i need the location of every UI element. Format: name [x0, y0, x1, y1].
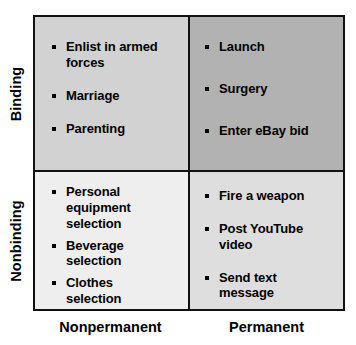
binding-permanence-matrix: Binding Nonbinding Enlist in armed force… — [0, 0, 356, 345]
square-bullet-icon — [52, 244, 56, 248]
column-axis-label-permanent: Permanent — [188, 314, 345, 340]
list-item: Beverage selection — [52, 238, 182, 270]
column-axis-label-nonpermanent: Nonpermanent — [33, 314, 188, 340]
square-bullet-icon — [52, 45, 56, 49]
square-bullet-icon — [205, 45, 209, 49]
list-item: Parenting — [52, 121, 182, 137]
quadrant-binding-permanent-list: Launch Surgery Enter eBay bid — [190, 17, 343, 139]
quadrant-binding-nonpermanent-list: Enlist in armed forces Marriage Parentin… — [35, 17, 188, 136]
list-item: Launch — [205, 39, 337, 55]
quadrant-binding-nonpermanent: Enlist in armed forces Marriage Parentin… — [35, 17, 190, 172]
row-axis-label-binding: Binding — [0, 16, 32, 171]
quadrant-nonbinding-permanent: Fire a weapon Post YouTube video Send te… — [190, 172, 343, 309]
list-item: Fire a weapon — [205, 188, 337, 204]
list-item: Enlist in armed forces — [52, 39, 182, 71]
row-axis-label-nonbinding: Nonbinding — [0, 171, 32, 311]
square-bullet-icon — [52, 94, 56, 98]
list-item: Enter eBay bid — [205, 123, 337, 139]
list-item: Post YouTube video — [205, 221, 337, 253]
quadrant-binding-permanent: Launch Surgery Enter eBay bid — [190, 17, 343, 172]
row-axis-label-nonbinding-text: Nonbinding — [8, 200, 24, 282]
list-item: Surgery — [205, 81, 337, 97]
square-bullet-icon — [205, 194, 209, 198]
square-bullet-icon — [205, 87, 209, 91]
quadrant-nonbinding-nonpermanent-list: Personal equipment selection Beverage se… — [35, 172, 188, 307]
matrix-grid: Enlist in armed forces Marriage Parentin… — [33, 15, 345, 311]
square-bullet-icon — [52, 190, 56, 194]
square-bullet-icon — [52, 281, 56, 285]
list-item: Send text message — [205, 270, 337, 302]
list-item: Clothes selection — [52, 275, 182, 307]
square-bullet-icon — [205, 129, 209, 133]
quadrant-nonbinding-permanent-list: Fire a weapon Post YouTube video Send te… — [190, 172, 343, 301]
square-bullet-icon — [52, 127, 56, 131]
list-item: Personal equipment selection — [52, 184, 182, 232]
square-bullet-icon — [205, 227, 209, 231]
row-axis-label-binding-text: Binding — [8, 66, 24, 121]
column-axis: Nonpermanent Permanent — [33, 314, 345, 340]
list-item: Marriage — [52, 88, 182, 104]
square-bullet-icon — [205, 276, 209, 280]
quadrant-nonbinding-nonpermanent: Personal equipment selection Beverage se… — [35, 172, 190, 309]
